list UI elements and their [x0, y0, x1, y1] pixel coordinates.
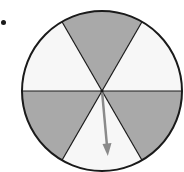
spinner-diagram	[0, 0, 184, 172]
spinner-pivot	[100, 89, 103, 92]
